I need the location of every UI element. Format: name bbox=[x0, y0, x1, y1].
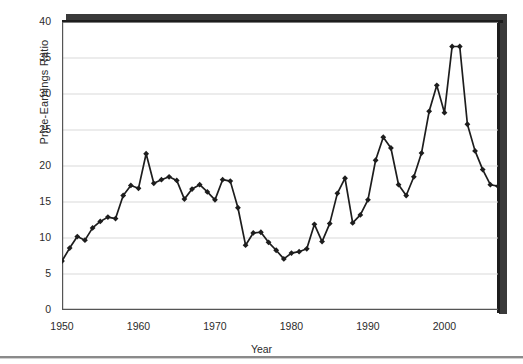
data-point-marker bbox=[495, 183, 498, 189]
x-tick-label: 1960 bbox=[115, 320, 161, 332]
data-point-marker bbox=[434, 82, 440, 88]
x-axis-title: Year bbox=[0, 343, 523, 355]
data-point-marker bbox=[220, 177, 226, 183]
data-point-marker bbox=[327, 221, 333, 227]
data-point-marker bbox=[457, 44, 463, 50]
x-tick-label: 1950 bbox=[39, 320, 85, 332]
data-point-marker bbox=[334, 190, 340, 196]
data-point-marker bbox=[449, 44, 455, 50]
data-point-marker bbox=[227, 178, 233, 184]
data-point-marker bbox=[373, 157, 379, 163]
chart-figure: Price-Earnings Ratio 0510152025303540 19… bbox=[0, 0, 523, 364]
data-point-marker bbox=[159, 177, 165, 183]
data-point-marker bbox=[136, 185, 142, 191]
data-point-marker bbox=[342, 175, 348, 181]
data-point-marker bbox=[235, 205, 241, 211]
data-line bbox=[62, 46, 498, 261]
y-tick-label: 5 bbox=[21, 267, 51, 279]
y-tick-label: 40 bbox=[21, 15, 51, 27]
data-point-marker bbox=[166, 174, 172, 180]
y-tick-label: 15 bbox=[21, 195, 51, 207]
data-point-marker bbox=[312, 221, 318, 227]
data-point-marker bbox=[319, 239, 325, 245]
y-tick-label: 10 bbox=[21, 231, 51, 243]
data-point-marker bbox=[487, 182, 493, 188]
y-tick-label: 20 bbox=[21, 159, 51, 171]
data-point-marker bbox=[296, 249, 302, 255]
y-tick-label: 35 bbox=[21, 51, 51, 63]
data-point-marker bbox=[442, 110, 448, 116]
data-point-marker bbox=[151, 180, 157, 186]
data-point-marker bbox=[113, 216, 119, 222]
x-tick-label: 2000 bbox=[421, 320, 467, 332]
y-tick-label: 30 bbox=[21, 87, 51, 99]
data-point-marker bbox=[465, 121, 471, 127]
x-tick-label: 1990 bbox=[345, 320, 391, 332]
data-point-marker bbox=[143, 151, 149, 157]
x-tick-label: 1970 bbox=[192, 320, 238, 332]
data-point-marker bbox=[419, 150, 425, 156]
data-point-marker bbox=[426, 108, 432, 114]
data-point-marker bbox=[304, 246, 310, 252]
y-tick-label: 25 bbox=[21, 123, 51, 135]
x-tick-label: 1980 bbox=[268, 320, 314, 332]
frame-shadow-right bbox=[499, 14, 507, 314]
data-point-marker bbox=[411, 174, 417, 180]
data-point-marker bbox=[174, 178, 180, 184]
line-chart-svg bbox=[62, 22, 498, 310]
y-tick-label: 0 bbox=[21, 303, 51, 315]
footer-rule-light bbox=[0, 358, 523, 359]
data-point-marker bbox=[472, 148, 478, 154]
data-point-marker bbox=[480, 167, 486, 173]
plot-area bbox=[62, 22, 498, 310]
